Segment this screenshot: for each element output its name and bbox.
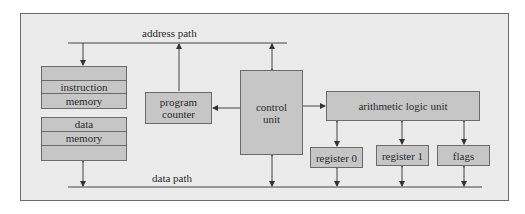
control-unit: control unit	[240, 70, 303, 155]
alu-label: arithmetic logic unit	[358, 100, 447, 112]
data-memory-row-2	[42, 146, 126, 160]
register-1: register 1	[376, 145, 429, 166]
instruction-memory-row-0	[42, 67, 126, 81]
instruction-memory-label-1: instruction	[42, 81, 126, 95]
flags-label: flags	[453, 150, 474, 162]
register-1-label: register 1	[382, 150, 423, 162]
register-0: register 0	[310, 147, 363, 168]
address-path-label: address path	[142, 27, 197, 39]
data-memory: data memory	[41, 117, 127, 161]
data-memory-label-1: data	[42, 118, 126, 132]
register-0-label: register 0	[316, 152, 357, 164]
data-memory-label-2: memory	[42, 132, 126, 146]
instruction-memory-label-2: memory	[42, 94, 126, 108]
control-unit-label-2: unit	[263, 113, 280, 125]
program-counter-label-1: program	[160, 96, 197, 108]
program-counter-label-2: counter	[162, 108, 195, 120]
flags-register: flags	[437, 145, 490, 166]
control-unit-label-1: control	[256, 101, 287, 113]
instruction-memory: instruction memory	[41, 66, 127, 109]
arithmetic-logic-unit: arithmetic logic unit	[326, 91, 480, 121]
data-path-label: data path	[152, 172, 192, 184]
program-counter: program counter	[145, 92, 212, 124]
